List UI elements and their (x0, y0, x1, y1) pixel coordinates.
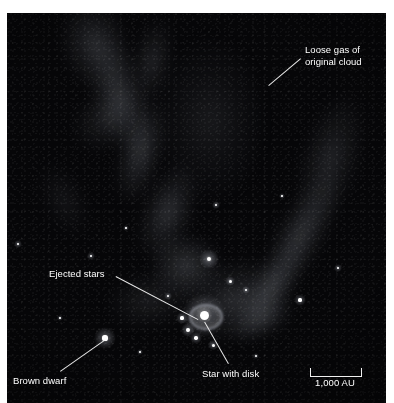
leader-line-ejected-stars (116, 276, 198, 320)
scale-bar-label: 1,000 AU (306, 377, 364, 388)
annotation-layer: Loose gas of original cloudEjected stars… (7, 13, 386, 403)
caption-strip (0, 0, 394, 11)
leader-line-brown-dwarf (60, 340, 105, 372)
annotation-label-star-with-disk: Star with disk (202, 368, 259, 380)
annotation-label-loose-gas: Loose gas of original cloud (305, 44, 362, 67)
scale-bar-bracket (310, 368, 362, 377)
figure-root: Loose gas of original cloudEjected stars… (0, 0, 394, 403)
leader-line-star-with-disk (204, 322, 229, 364)
annotation-label-brown-dwarf: Brown dwarf (13, 375, 66, 387)
astronomy-photo: Loose gas of original cloudEjected stars… (7, 13, 386, 403)
leader-line-loose-gas (268, 58, 301, 86)
annotation-label-ejected-stars: Ejected stars (49, 268, 105, 280)
